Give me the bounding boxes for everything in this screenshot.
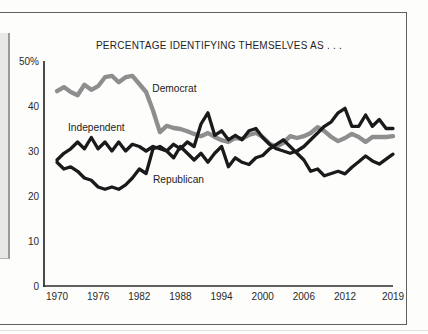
series-label-independent: Independent (68, 122, 125, 133)
y-tick-label: 10 (28, 236, 40, 247)
party-id-line-chart: 01020304050%1970197619821988199420002006… (0, 0, 428, 334)
x-tick-label: 1988 (169, 291, 192, 302)
x-tick-label: 1982 (128, 291, 151, 302)
series-label-democrat: Democrat (152, 83, 196, 94)
y-tick-label: 40 (28, 101, 40, 112)
x-tick-label: 2000 (252, 291, 275, 302)
y-tick-label: 0 (33, 281, 39, 292)
x-tick-label: 1994 (210, 291, 233, 302)
page-scan-edge (0, 330, 428, 331)
x-tick-label: 2006 (293, 291, 316, 302)
y-tick-label: 50% (19, 56, 39, 67)
x-tick-label: 2012 (334, 291, 357, 302)
x-tick-label: 1970 (46, 291, 69, 302)
y-tick-label: 30 (28, 146, 40, 157)
x-tick-label: 1976 (87, 291, 110, 302)
series-label-republican: Republican (153, 174, 204, 185)
x-tick-label: 2019 (382, 291, 405, 302)
y-tick-label: 20 (28, 191, 40, 202)
